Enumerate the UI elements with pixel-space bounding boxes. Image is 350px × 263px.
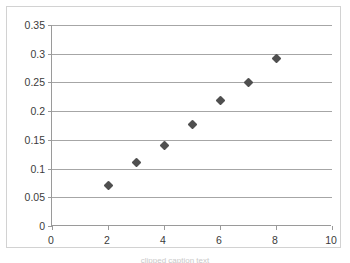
y-axis-tick bbox=[48, 140, 52, 141]
x-axis-tick bbox=[164, 226, 165, 230]
data-point[interactable] bbox=[159, 140, 169, 150]
x-axis-tick-label: 4 bbox=[148, 235, 178, 245]
x-axis-tick-label: 10 bbox=[316, 235, 346, 245]
y-axis-tick-label: 0 bbox=[39, 221, 45, 231]
y-axis-tick-label: 0.35 bbox=[25, 20, 45, 30]
data-point[interactable] bbox=[131, 158, 141, 168]
x-axis-tick bbox=[52, 226, 53, 230]
x-axis-tick bbox=[108, 226, 109, 230]
y-axis-tick bbox=[48, 82, 52, 83]
y-axis-tick bbox=[48, 25, 52, 26]
gridline bbox=[52, 140, 332, 141]
y-axis-tick-label: 0.05 bbox=[25, 192, 45, 202]
chart-caption: clipped caption text bbox=[0, 256, 350, 263]
gridline bbox=[52, 197, 332, 198]
x-axis-tick bbox=[332, 226, 333, 230]
x-axis-tick bbox=[276, 226, 277, 230]
y-axis-tick-label: 0.2 bbox=[30, 106, 45, 116]
y-axis-tick-label: 0.25 bbox=[25, 77, 45, 87]
y-axis-tick bbox=[48, 111, 52, 112]
x-axis-tick-label: 8 bbox=[260, 235, 290, 245]
plot-area bbox=[51, 25, 331, 226]
y-axis-tick bbox=[48, 197, 52, 198]
gridline bbox=[52, 82, 332, 83]
x-axis-tick bbox=[220, 226, 221, 230]
y-axis-tick-labels: 00.050.10.150.20.250.30.35 bbox=[7, 25, 45, 226]
gridline bbox=[52, 169, 332, 170]
x-axis-tick-label: 2 bbox=[92, 235, 122, 245]
x-axis-tick-label: 0 bbox=[36, 235, 66, 245]
x-axis-tick-label: 6 bbox=[204, 235, 234, 245]
gridline bbox=[52, 54, 332, 55]
y-axis-tick-label: 0.15 bbox=[25, 135, 45, 145]
x-axis-tick-labels: 0246810 bbox=[51, 235, 331, 249]
y-axis-tick-label: 0.1 bbox=[30, 164, 45, 174]
y-axis-tick-label: 0.3 bbox=[30, 49, 45, 59]
data-point[interactable] bbox=[243, 77, 253, 87]
y-axis-tick bbox=[48, 54, 52, 55]
data-point[interactable] bbox=[103, 181, 113, 191]
data-point[interactable] bbox=[215, 96, 225, 106]
gridline bbox=[52, 111, 332, 112]
chart-frame: 00.050.10.150.20.250.30.35 0246810 bbox=[6, 6, 341, 248]
data-point[interactable] bbox=[187, 119, 197, 129]
y-axis-tick bbox=[48, 169, 52, 170]
data-point[interactable] bbox=[271, 54, 281, 64]
gridline bbox=[52, 25, 332, 26]
